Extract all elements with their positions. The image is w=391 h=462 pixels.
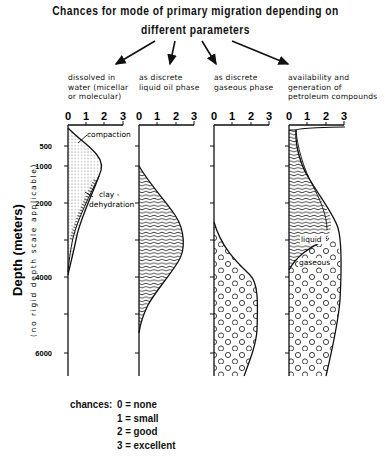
- svg-text:0: 0: [65, 110, 71, 122]
- svg-text:0: 0: [211, 110, 217, 122]
- legend-item-1: 1 = small: [117, 412, 159, 426]
- svg-text:1: 1: [304, 110, 310, 122]
- panel-availability: liquid gaseous: [289, 127, 345, 376]
- migration-diagram: 500 1000 2000 4000 6000 Depth (meters) (…: [0, 0, 391, 462]
- svg-text:3: 3: [341, 110, 347, 122]
- x-tick-labels: 0123 0123 0123 0123: [65, 110, 347, 122]
- panel-dissolved: compaction clay - dehydration: [68, 128, 135, 275]
- annotation-clay: clay -: [99, 190, 120, 199]
- legend-item-2: 2 = good: [117, 425, 157, 439]
- svg-text:2: 2: [101, 110, 107, 122]
- svg-text:0: 0: [286, 110, 292, 122]
- panel-gaseous: [214, 222, 257, 376]
- svg-text:3: 3: [120, 110, 126, 122]
- svg-text:2: 2: [173, 110, 179, 122]
- svg-text:500: 500: [39, 142, 52, 151]
- legend-label: chances:: [70, 398, 112, 412]
- svg-text:2: 2: [323, 110, 329, 122]
- annotation-compaction: compaction: [87, 130, 131, 139]
- legend-item-3: 3 = excellent: [117, 439, 175, 453]
- svg-text:0: 0: [136, 110, 142, 122]
- svg-text:1: 1: [83, 110, 89, 122]
- annotation-liquid: liquid: [301, 235, 322, 244]
- annotation-dehydration: dehydration: [89, 200, 135, 209]
- svg-text:1: 1: [154, 110, 160, 122]
- svg-text:3: 3: [191, 110, 197, 122]
- svg-text:2: 2: [248, 110, 254, 122]
- title-arrows: [116, 41, 288, 64]
- svg-text:1: 1: [229, 110, 235, 122]
- panel-liquid: [139, 166, 183, 333]
- depth-axis-sublabel: (no rigid depth scale applicable): [29, 163, 38, 337]
- legend-item-0: 0 = none: [117, 398, 157, 412]
- svg-text:3: 3: [266, 110, 272, 122]
- annotation-gaseous: gaseous: [299, 258, 330, 267]
- svg-text:6000: 6000: [35, 349, 52, 358]
- depth-axis-label: Depth (meters): [10, 204, 25, 296]
